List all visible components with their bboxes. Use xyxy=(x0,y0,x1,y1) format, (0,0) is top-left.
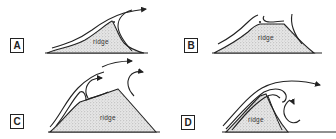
flow-arrow-a-lower xyxy=(102,61,132,67)
ridge-label-a: ridge xyxy=(93,38,109,46)
panel-label-d: D xyxy=(181,115,195,130)
ridge-c xyxy=(50,89,156,132)
crest-marker-a xyxy=(113,21,115,23)
ridge-label-b: ridge xyxy=(258,34,274,42)
panel-label-b: B xyxy=(184,38,198,53)
panel-a: ridge xyxy=(45,9,148,67)
panel-b: ridge xyxy=(212,14,322,53)
panel-label-c: C xyxy=(10,114,24,129)
flow-arrow-c-lee xyxy=(128,72,143,96)
ridge-label-d: ridge xyxy=(248,116,264,124)
diagram-canvas: ridge ridge ridge ridge xyxy=(0,0,336,139)
flow-line-d-rotor xyxy=(284,100,300,123)
panel-label-a: A xyxy=(10,38,24,53)
panel-d: ridge xyxy=(222,81,336,132)
ridge-label-c: ridge xyxy=(100,114,116,122)
rotor-arrowhead-d xyxy=(292,100,294,104)
panel-c: ridge xyxy=(48,72,160,132)
crest-marker-b xyxy=(259,21,261,23)
flow-line-b-eddy xyxy=(263,16,284,22)
